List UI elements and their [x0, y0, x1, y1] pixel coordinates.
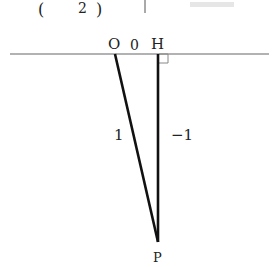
header-close-paren: )	[96, 0, 102, 19]
label-HP-length: −1	[171, 126, 193, 144]
label-H: H	[151, 35, 164, 53]
geometry-diagram: ( 2 ) O 0 H 1 −1 P	[0, 0, 274, 267]
faded-text-block	[190, 2, 234, 7]
label-P: P	[153, 250, 162, 265]
label-OP-length: 1	[114, 126, 124, 144]
label-origin-value: 0	[130, 37, 139, 53]
header-open-paren: (	[38, 0, 44, 19]
header-number: 2	[78, 0, 87, 16]
label-O: O	[108, 35, 120, 53]
segment-OP	[115, 54, 158, 242]
right-angle-mark	[159, 54, 168, 63]
